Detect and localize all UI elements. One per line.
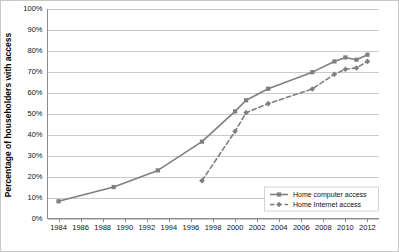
data-point-marker [277,192,281,196]
x-tick-label-1988: 1988 [94,223,111,232]
y-tick-label-0: 0% [32,214,43,223]
y-tick-label-70: 70% [27,67,42,76]
data-point-marker [265,101,271,107]
y-axis-tick-labels: 0%10%20%30%40%50%60%70%80%90%100% [23,4,43,223]
chart-container: 0%10%20%30%40%50%60%70%80%90%100% 198419… [0,0,399,252]
data-point-marker [112,185,116,189]
x-tick-label-2012: 2012 [359,223,376,232]
x-tick-label-2004: 2004 [271,223,288,232]
y-tick-label-50: 50% [27,109,42,118]
y-tick-label-10: 10% [27,193,42,202]
x-tick-label-1996: 1996 [183,223,200,232]
y-tick-label-60: 60% [27,88,42,97]
series-line [202,61,368,180]
data-point-marker [56,199,60,203]
data-point-marker [244,98,248,102]
y-tick-label-90: 90% [27,25,42,34]
line-chart: 0%10%20%30%40%50%60%70%80%90%100% 198419… [0,0,399,252]
data-point-marker [354,65,360,71]
y-tick-label-20: 20% [27,172,42,181]
chart-legend: Home computer accessHome Internet access [265,187,379,211]
legend-label-2: Home Internet access [293,201,362,208]
data-point-marker [200,140,204,144]
y-tick-label-80: 80% [27,46,42,55]
y-tick-label-40: 40% [27,130,42,139]
x-tick-label-1998: 1998 [205,223,222,232]
data-point-marker [365,53,369,57]
x-tick-label-1984: 1984 [50,223,67,232]
data-point-marker [310,70,314,74]
x-tick-label-1986: 1986 [72,223,89,232]
x-tick-label-1990: 1990 [116,223,133,232]
chart-outer-border [1,1,399,252]
series-line [59,55,368,202]
y-axis-title: Percentage of householders with access [3,33,13,198]
data-point-marker [156,168,160,172]
x-tick-label-2010: 2010 [337,223,354,232]
x-tick-label-2006: 2006 [293,223,310,232]
x-tick-label-2002: 2002 [249,223,266,232]
series-1 [56,53,369,204]
x-tick-label-1992: 1992 [138,223,155,232]
data-point-marker [343,55,347,59]
data-point-marker [354,58,358,62]
data-point-marker [233,109,237,113]
x-tick-label-2008: 2008 [315,223,332,232]
data-point-marker [266,87,270,91]
x-tick-label-1994: 1994 [161,223,178,232]
x-tick-label-2000: 2000 [227,223,244,232]
legend-label-1: Home computer access [293,191,367,199]
series-group [56,53,370,204]
y-tick-label-30: 30% [27,151,42,160]
x-axis-tick-labels: 1984198619881990199219941996199820002002… [50,223,376,232]
y-tick-label-100: 100% [23,4,43,13]
data-point-marker [332,59,336,63]
data-point-marker [343,66,349,72]
